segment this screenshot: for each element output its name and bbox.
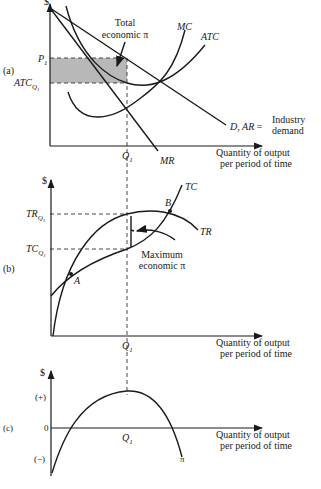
- profit-maximization-diagram: (a) $ P1 ATCQ1 Q1 MC ATC MR D, AR = Indu…: [0, 0, 321, 489]
- tc-curve: [51, 185, 182, 296]
- profit-curve: [52, 391, 182, 473]
- panel-b: (b) $ TRQ1 TCQ1 A B TC TR Maximum econom…: [3, 175, 292, 359]
- q1-label-a: Q1: [122, 150, 133, 164]
- tc-q1-label: TCQ1: [26, 243, 46, 258]
- x-axis-label-c: Quantity of output: [216, 429, 290, 440]
- svg-text:$: $: [42, 175, 47, 186]
- plus-label: (+): [35, 392, 46, 402]
- svg-text:$: $: [40, 367, 45, 378]
- pi-label: π: [180, 454, 185, 464]
- atc-q1-label: ATCQ1: [13, 77, 40, 92]
- panel-a-label: (a): [3, 65, 14, 77]
- svg-text:per period of time: per period of time: [220, 440, 292, 451]
- atc-label: ATC: [200, 31, 219, 42]
- mc-label: MC: [176, 21, 192, 32]
- max-profit-label: Maximum: [141, 249, 183, 260]
- x-axis-label-a: Quantity of output: [216, 147, 290, 158]
- q1-label-b: Q1: [122, 340, 133, 354]
- panel-b-label: (b): [3, 263, 15, 275]
- demand-label: D, AR =: [229, 121, 263, 132]
- tc-label: TC: [185, 181, 198, 192]
- svg-text:economic π: economic π: [139, 260, 185, 271]
- svg-text:$: $: [44, 0, 49, 7]
- p1-label: P1: [37, 53, 48, 67]
- panel-c: (c) $ (+) 0 (−) Q1 π Quantity of output …: [3, 367, 292, 476]
- svg-text:per period of time: per period of time: [220, 348, 292, 359]
- point-a: [69, 272, 73, 276]
- point-a-label: A: [73, 275, 81, 286]
- svg-text:demand: demand: [272, 125, 304, 136]
- minus-label: (−): [34, 454, 45, 464]
- svg-text:per period of time: per period of time: [220, 158, 292, 169]
- point-b: [168, 209, 172, 213]
- x-axis-label-b: Quantity of output: [216, 337, 290, 348]
- panel-c-label: (c): [3, 423, 13, 433]
- tr-label: TR: [200, 226, 212, 237]
- zero-label: 0: [44, 423, 49, 433]
- point-b-label: B: [165, 197, 171, 208]
- svg-text:economic π: economic π: [102, 29, 148, 40]
- q1-label-c: Q1: [122, 432, 133, 446]
- svg-text:Industry: Industry: [272, 114, 305, 125]
- total-profit-area: [50, 58, 127, 83]
- tr-q1-label: TRQ1: [26, 208, 45, 223]
- total-profit-label: Total: [115, 17, 136, 28]
- mr-label: MR: [159, 155, 174, 166]
